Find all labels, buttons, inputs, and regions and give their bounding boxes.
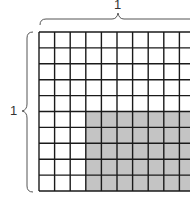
left-brace-icon — [22, 32, 33, 192]
top-brace-icon — [40, 13, 190, 25]
grid-diagram — [0, 0, 190, 201]
